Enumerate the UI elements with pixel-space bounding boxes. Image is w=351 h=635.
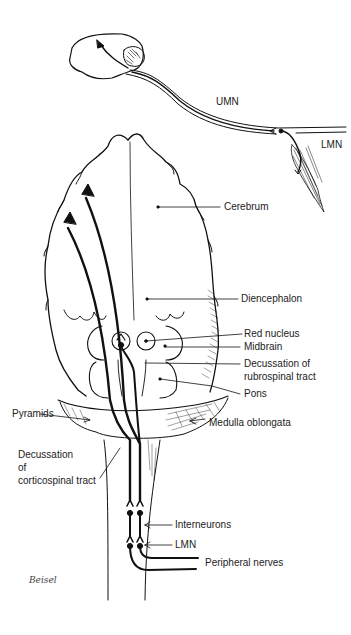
spinal-cord (104, 440, 160, 600)
label-midbrain: Midbrain (244, 341, 282, 353)
pons-medulla (58, 396, 228, 438)
label-pons: Pons (244, 388, 267, 400)
label-interneurons: Interneurons (175, 519, 231, 531)
label-decussation-rubrospinal-1: Decussation of (244, 358, 310, 370)
label-lmn-inset: LMN (321, 139, 342, 151)
label-decussation-corticospinal-1: Decussation (18, 449, 73, 461)
label-decussation-corticospinal-2: of (18, 462, 26, 474)
cerebrum-outline (44, 134, 219, 396)
cord-synapses (127, 500, 198, 570)
label-decussation-rubrospinal-2: rubrospinal tract (244, 371, 316, 383)
label-diencephalon: Diencephalon (241, 293, 302, 305)
label-lmn: LMN (175, 539, 196, 551)
label-medulla-oblongata: Medulla oblongata (209, 417, 291, 429)
label-red-nucleus: Red nucleus (244, 328, 300, 340)
inset-muscle (291, 145, 324, 212)
corticospinal-tracts (64, 184, 140, 500)
label-pyramids: Pyramids (12, 408, 54, 420)
label-cerebrum: Cerebrum (224, 201, 268, 213)
diencephalon-folds (64, 310, 184, 320)
label-decussation-corticospinal-3: corticospinal tract (18, 475, 96, 487)
label-umn: UMN (216, 96, 239, 108)
label-peripheral-nerves: Peripheral nerves (205, 557, 283, 569)
artist-signature: Beisel (29, 575, 57, 585)
